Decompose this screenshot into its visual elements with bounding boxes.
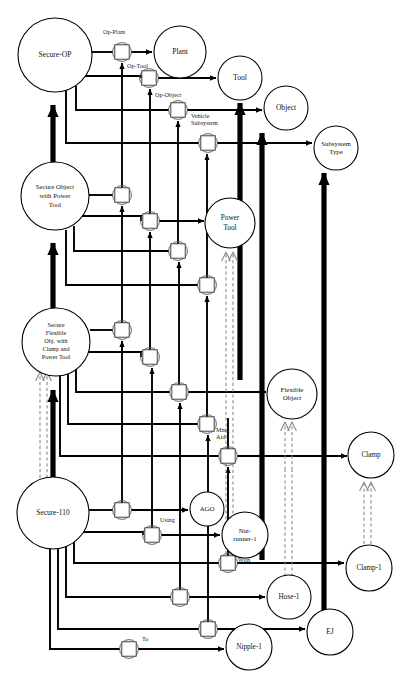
connector-conn-sopt-d[interactable] — [198, 276, 217, 295]
edge-label-conn-using: Using — [160, 516, 175, 523]
edge-label-conn-vehicle-subsys: VehicleSubsystem — [191, 112, 218, 126]
node-object[interactable]: Object — [264, 86, 308, 130]
connector-conn-s110-a[interactable] — [113, 501, 132, 520]
edge-label-conn-op-object: Op-Object — [155, 91, 181, 98]
node-subsystem-type[interactable]: SubsystemType — [314, 126, 358, 170]
node-label-ej: EJ — [326, 627, 334, 636]
node-label-plant: Plant — [172, 47, 189, 56]
connector-conn-hose[interactable] — [171, 588, 190, 607]
node-secure-object-pt[interactable]: Secure Objectwith PowerTool — [21, 162, 89, 230]
connector-conn-sf-c[interactable] — [170, 383, 189, 402]
node-label-tool: Tool — [233, 73, 247, 82]
node-secure-110[interactable]: Secure-110 — [17, 477, 89, 549]
node-ej[interactable]: EJ — [307, 609, 353, 655]
connector-conn-using[interactable] — [143, 526, 162, 545]
node-hose-1[interactable]: Hose-1 — [267, 575, 311, 619]
connector-conn-vehicle-subsys[interactable] — [199, 134, 218, 153]
connector-conn-sf-a[interactable] — [113, 321, 132, 340]
node-label-clamp: Clamp — [361, 451, 381, 459]
connector-conn-sopt-a[interactable] — [113, 186, 132, 205]
node-secure-flex[interactable]: SecureFlexibleObj. withClamp andPower To… — [22, 308, 90, 376]
node-label-secure-110: Secure-110 — [36, 508, 70, 517]
connector-conn-op-tool[interactable] — [140, 69, 159, 88]
node-label-object: Object — [276, 103, 297, 112]
node-label-flexible-object: FlexibleObject — [281, 385, 304, 402]
connector-conn-mntg-aid[interactable] — [219, 447, 238, 466]
edge-label-conn-to: To — [142, 635, 148, 642]
node-clamp[interactable]: Clamp — [348, 432, 394, 478]
connector-nodes — [113, 43, 238, 659]
connector-conn-with[interactable] — [219, 554, 238, 573]
node-label-ago: AGO — [199, 505, 214, 513]
node-power-tool[interactable]: PowerTool — [205, 198, 255, 248]
connector-conn-to[interactable] — [120, 640, 139, 659]
node-secure-op[interactable]: Secure-OP — [18, 18, 92, 92]
connector-conn-sopt-b[interactable] — [141, 212, 160, 231]
connector-conn-sf-b[interactable] — [141, 348, 160, 367]
connector-conn-ej[interactable] — [199, 620, 218, 639]
node-label-secure-op: Secure-OP — [39, 50, 72, 59]
node-flexible-object[interactable]: FlexibleObject — [267, 369, 317, 419]
connector-conn-op-plant[interactable] — [113, 43, 132, 62]
diagram-canvas: Secure-OPPlantToolObjectSubsystemTypeSec… — [0, 0, 405, 686]
node-nipple-1[interactable]: Nipple-1 — [226, 624, 272, 670]
node-clamp-1[interactable]: Clamp-1 — [346, 545, 392, 591]
connector-conn-sf-d[interactable] — [198, 415, 217, 434]
node-ago[interactable]: AGO — [190, 492, 224, 526]
node-plant[interactable]: Plant — [154, 26, 206, 78]
edge-label-conn-with: With — [238, 556, 251, 563]
node-label-hose-1: Hose-1 — [279, 593, 300, 601]
node-label-clamp-1: Clamp-1 — [356, 564, 382, 572]
node-label-nipple-1: Nipple-1 — [236, 643, 262, 651]
node-tool[interactable]: Tool — [218, 56, 262, 100]
edge-label-conn-op-tool: Op-Tool — [127, 62, 148, 69]
edge-label-conn-op-plant: Op-Plant — [103, 28, 126, 35]
node-nut-runner-1[interactable]: Nut-runner-1 — [222, 512, 268, 558]
connector-conn-op-object[interactable] — [169, 101, 188, 120]
connector-conn-sopt-c[interactable] — [169, 242, 188, 261]
